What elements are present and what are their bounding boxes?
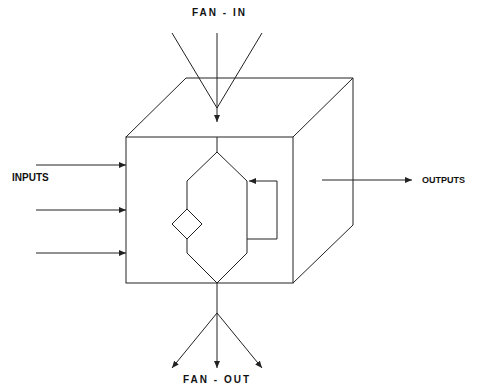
input-arrows (36, 165, 126, 253)
diamond-shape (172, 209, 202, 239)
inner-process (172, 137, 277, 283)
inputs-label: INPUTS (12, 171, 24, 184)
fan-out-arrows (172, 283, 262, 368)
cube-top-face (126, 78, 353, 137)
outputs-label: OUTPUTS (422, 175, 465, 185)
fan-out-label: FAN - OUT (183, 374, 251, 385)
cube-diagram (0, 0, 482, 391)
cube (126, 78, 353, 283)
feedback-loop (247, 181, 277, 239)
fan-in-label: FAN - IN (192, 7, 247, 18)
